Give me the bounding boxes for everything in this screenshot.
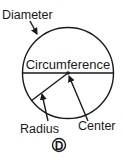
radius-label: Radius [20,122,59,136]
center-arrow [69,76,88,121]
diagram-canvas: Diameter Circumference Radius Center D [0,0,122,166]
option-marker-letter: D [55,139,64,153]
radius-line [31,73,68,101]
circumference-label: Circumference [26,57,111,72]
option-marker: D [53,139,66,153]
circle-parts-diagram: Diameter Circumference Radius Center D [0,0,122,166]
radius-arrow [42,94,48,121]
center-label: Center [78,119,116,133]
diameter-label: Diameter [2,8,53,22]
diameter-arrow [30,21,37,34]
